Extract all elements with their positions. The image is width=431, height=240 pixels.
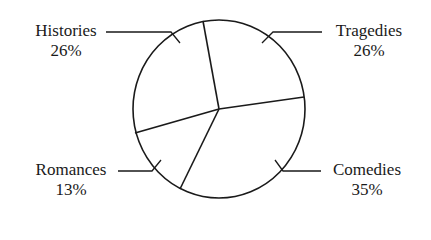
label-comedies: Comedies 35% <box>323 160 411 200</box>
label-romances: Romances 13% <box>24 160 118 200</box>
leader-line-comedies <box>275 160 321 171</box>
slice-divider-histories-tragedies <box>203 21 219 109</box>
slice-divider-comedies-romances <box>180 109 219 189</box>
slice-label-percent: 35% <box>323 180 411 200</box>
slice-label-percent: 26% <box>325 41 413 61</box>
slice-divider-romances-histories <box>135 109 219 133</box>
slice-label-name: Romances <box>24 160 118 180</box>
label-tragedies: Tragedies 26% <box>325 21 413 61</box>
slice-divider-tragedies-comedies <box>219 97 304 109</box>
slice-label-name: Comedies <box>323 160 411 180</box>
slice-label-name: Tragedies <box>325 21 413 41</box>
slice-label-percent: 26% <box>24 41 108 61</box>
slice-label-percent: 13% <box>24 180 118 200</box>
label-histories: Histories 26% <box>24 21 108 61</box>
slice-label-name: Histories <box>24 21 108 41</box>
leader-line-romances <box>118 160 161 171</box>
